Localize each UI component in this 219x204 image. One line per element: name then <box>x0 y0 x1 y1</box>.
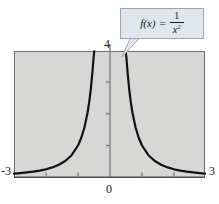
fraction: 1 x2 <box>170 11 184 35</box>
fraction-numerator: 1 <box>171 11 182 22</box>
figure-container: -3 3 4 0 f(x) = 1 x2 <box>0 0 219 204</box>
denominator-exponent: 2 <box>177 23 181 31</box>
function-callout-box: f(x) = 1 x2 <box>120 8 204 39</box>
curve-left-branch <box>14 51 94 173</box>
x-axis-max-label: 3 <box>209 165 215 177</box>
function-name: f(x) <box>140 17 155 29</box>
y-axis-max-label: 4 <box>104 38 110 50</box>
equals-sign: = <box>160 17 166 29</box>
fraction-denominator: x2 <box>170 23 184 35</box>
callout-pointer <box>122 39 139 57</box>
x-axis-min-label: -3 <box>1 165 11 177</box>
curve-right-branch <box>126 51 205 173</box>
function-formula: f(x) = 1 x2 <box>140 11 183 35</box>
origin-label: 0 <box>106 183 112 195</box>
